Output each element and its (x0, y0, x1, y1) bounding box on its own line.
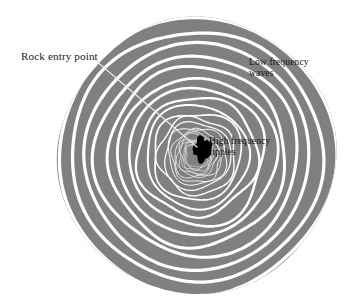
label-low-frequency-waves: Low frequency waves (249, 57, 309, 78)
label-high-frequency-ripples: High frequency ripples (209, 136, 270, 157)
ripple-diagram: Rock entry point Low frequency waves Hig… (0, 0, 360, 306)
ripple-illustration (0, 0, 360, 306)
label-rock-entry-point: Rock entry point (21, 50, 98, 63)
